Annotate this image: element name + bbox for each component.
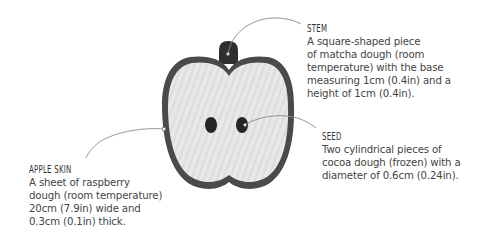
apple-skin-line: 20cm (7.9in) wide and (29, 202, 162, 215)
stem-line: height of 1cm (0.4in). (307, 87, 451, 100)
stem-description: A square-shaped piece of matcha dough (r… (307, 35, 451, 100)
stem-line: measuring 1cm (0.4in) and a (307, 74, 451, 87)
apple-flesh-shape (168, 62, 288, 182)
apple-skin-title: APPLE SKIN (29, 163, 133, 176)
seed-line: Two cylindrical pieces of (322, 143, 461, 156)
apple-skin-line: dough (room temperature) (29, 189, 162, 202)
seed-left (205, 117, 217, 133)
seed-callout: SEED Two cylindrical pieces of cocoa dou… (322, 130, 461, 182)
apple-skin-line: 0.3cm (0.1in) thick. (29, 215, 162, 228)
seed-leader-dot (244, 124, 247, 127)
seed-line: cocoa dough (frozen) with a (322, 156, 461, 169)
stem-line: temperature) with the base (307, 61, 451, 74)
seed-title: SEED (322, 130, 430, 143)
skin-leader-line (86, 129, 164, 158)
apple-skin-line: A sheet of raspberry (29, 176, 162, 189)
stem-leader-dot (227, 53, 230, 56)
stem-leader-line (228, 18, 301, 54)
apple-skin-callout: APPLE SKIN A sheet of raspberry dough (r… (29, 163, 162, 228)
apple-skin-description: A sheet of raspberry dough (room tempera… (29, 176, 162, 228)
skin-leader-dot (163, 128, 166, 131)
stem-title: STEM (307, 22, 419, 35)
stem-line: A square-shaped piece (307, 35, 451, 48)
stem-line: of matcha dough (room (307, 48, 451, 61)
seed-line: diameter of 0.6cm (0.24in). (322, 169, 461, 182)
seed-description: Two cylindrical pieces of cocoa dough (f… (322, 143, 461, 182)
stem-callout: STEM A square-shaped piece of matcha dou… (307, 22, 451, 100)
